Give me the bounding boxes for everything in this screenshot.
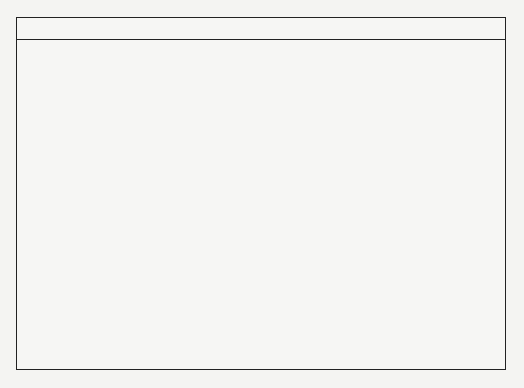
population-pyramids: [0, 0, 524, 388]
